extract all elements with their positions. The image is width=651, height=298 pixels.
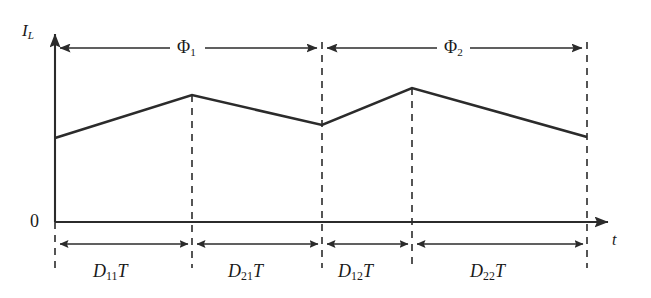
interval-d21-label: D21T [228, 262, 263, 283]
dashed-marker-lines [55, 42, 587, 268]
inductor-current-waveform-figure: IL 0 t Φ1 Φ2 D11T D21T D12T D22T [0, 0, 651, 298]
phase-1-label: Φ1 [177, 38, 196, 59]
inductor-current-waveform [55, 88, 587, 138]
phase-2-label: Φ2 [444, 38, 463, 59]
origin-label: 0 [30, 212, 39, 230]
y-axis-label: IL [22, 22, 34, 41]
interval-d22-label: D22T [470, 262, 505, 283]
x-axis-label: t [612, 232, 616, 248]
axes-group [55, 34, 608, 222]
interval-d11-label: D11T [93, 262, 127, 283]
interval-d12-label: D12T [338, 262, 373, 283]
waveform-svg [0, 0, 651, 298]
